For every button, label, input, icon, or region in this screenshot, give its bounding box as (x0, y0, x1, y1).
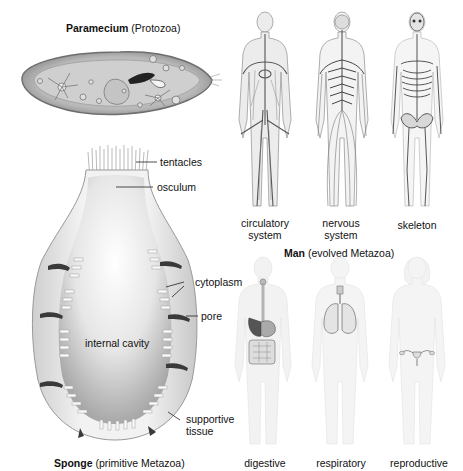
respiratory-figure (312, 257, 368, 444)
paramecium-illustration (0, 40, 230, 130)
label-internal-cavity: internal cavity (85, 337, 149, 349)
sponge-title: Sponge (primitive Metazoa) (54, 457, 185, 469)
skeleton-figure (391, 12, 443, 206)
sponge-title-rest: (primitive Metazoa) (93, 457, 185, 469)
circulatory-line1: circulatory (232, 217, 298, 229)
label-pore: pore (201, 310, 222, 322)
label-respiratory: respiratory (306, 457, 376, 469)
label-circulatory-system: circulatory system (232, 217, 298, 241)
label-digestive: digestive (232, 457, 298, 469)
circulatory-line2: system (232, 229, 298, 241)
paramecium-title: Paramecium (Protozoa) (66, 22, 180, 34)
nervous-line1: nervous (308, 217, 374, 229)
digestive-figure (235, 257, 291, 444)
nervous-line2: system (308, 229, 374, 241)
label-skeleton: skeleton (384, 219, 450, 231)
label-tentacles: tentacles (160, 156, 202, 168)
paramecium-title-bold: Paramecium (66, 22, 128, 34)
human-figures-top-row (225, 10, 463, 210)
sponge-title-bold: Sponge (54, 457, 93, 469)
label-reproductive: reproductive (381, 457, 457, 469)
human-figures-bottom-row (225, 256, 463, 446)
label-osculum: osculum (157, 181, 196, 193)
circulatory-figure (239, 12, 291, 206)
reproductive-figure (389, 257, 445, 444)
nervous-figure (316, 12, 368, 206)
label-nervous-system: nervous system (308, 217, 374, 241)
paramecium-title-rest: (Protozoa) (128, 22, 180, 34)
